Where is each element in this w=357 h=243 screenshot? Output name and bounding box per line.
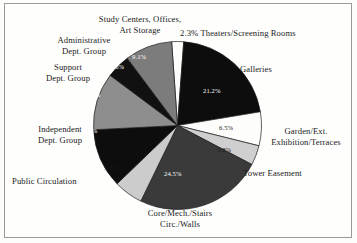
pie-slice (178, 42, 261, 126)
label-independent-line1: Independent (38, 124, 82, 134)
label-galleries: Galleries (240, 64, 272, 75)
label-study-centers-line2: Art Storage (120, 25, 161, 35)
label-tower-easement: Tower Easement (243, 168, 302, 179)
label-independent-line2: Dept. Group (38, 135, 82, 145)
label-core-mech-line1: Core/Mech./Stairs (148, 208, 212, 218)
pct-independent: 11.4% (80, 127, 97, 134)
label-administrative-line1: Administrative (58, 35, 111, 45)
pct-core-mech: 24.5% (164, 170, 182, 177)
pct-administrative: 4.6% (110, 63, 124, 70)
pct-public-circulation: 5.6% (104, 164, 118, 171)
label-garden-line1: Garden/Ext. (285, 126, 328, 136)
label-support-line2: Dept. Group (46, 73, 90, 83)
label-support-line1: Support (54, 62, 82, 72)
label-administrative: Administrative Dept. Group (22, 35, 146, 56)
pct-tower-easement: 3.8% (217, 146, 231, 153)
label-theaters: 2.3% Theaters/Screening Rooms (180, 28, 296, 39)
pct-galleries: 21.2% (203, 87, 221, 94)
pie-chart: Study Centers, Offices, Art Storage Admi… (0, 0, 357, 243)
label-garden: Garden/Ext. Exhibition/Terraces (258, 126, 354, 147)
label-core-mech: Core/Mech./Stairs Circ./Walls (110, 208, 250, 229)
pct-study-centers: 9.1% (132, 53, 146, 60)
label-administrative-line2: Dept. Group (62, 46, 106, 56)
label-independent: Independent Dept. Group (3, 124, 117, 145)
label-core-mech-line2: Circ./Walls (160, 219, 200, 229)
label-garden-line2: Exhibition/Terraces (271, 137, 341, 147)
pct-garden: 6.5% (219, 124, 233, 131)
label-public-circulation: Public Circulation (12, 176, 77, 187)
pct-support: 11.0% (83, 91, 100, 98)
label-study-centers-line1: Study Centers, Offices, (99, 14, 181, 24)
figure-frame: Study Centers, Offices, Art Storage Admi… (0, 0, 357, 243)
